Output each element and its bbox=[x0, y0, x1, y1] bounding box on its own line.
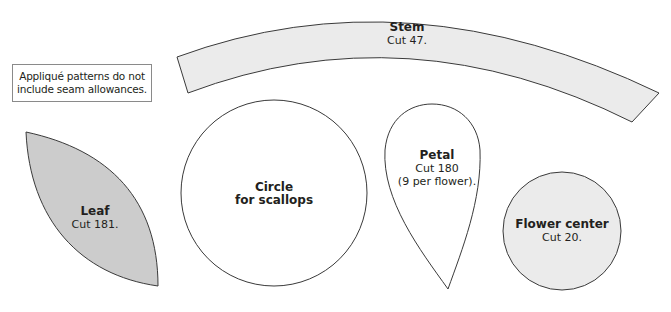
petal-label: Petal Cut 180 (9 per flower). bbox=[392, 149, 482, 188]
circle-title-2: for scallops bbox=[214, 194, 334, 207]
note-line-1: Appliqué patterns do not bbox=[19, 70, 145, 82]
petal-cut-2: (9 per flower). bbox=[392, 175, 482, 188]
flower-center-cut: Cut 20. bbox=[512, 231, 612, 244]
petal-title: Petal bbox=[392, 149, 482, 162]
stem-cut: Cut 47. bbox=[367, 34, 447, 47]
petal-shape bbox=[385, 104, 480, 289]
flower-center-label: Flower center Cut 20. bbox=[512, 218, 612, 244]
flower-center-title: Flower center bbox=[512, 218, 612, 231]
leaf-cut: Cut 181. bbox=[60, 218, 130, 231]
seam-allowance-note: Appliqué patterns do not include seam al… bbox=[12, 64, 152, 102]
leaf-title: Leaf bbox=[60, 205, 130, 218]
petal-cut-1: Cut 180 bbox=[392, 162, 482, 175]
pattern-canvas bbox=[0, 0, 671, 312]
circle-label: Circle for scallops bbox=[214, 181, 334, 207]
note-line-2: include seam allowances. bbox=[17, 83, 147, 95]
stem-title: Stem bbox=[367, 21, 447, 34]
leaf-label: Leaf Cut 181. bbox=[60, 205, 130, 231]
stem-label: Stem Cut 47. bbox=[367, 21, 447, 47]
